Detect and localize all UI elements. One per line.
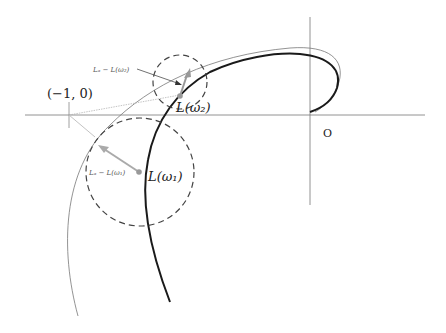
point-w2 [177, 93, 183, 99]
point-w2-label: L(ω₂) [175, 100, 211, 115]
leader-line-w2 [137, 69, 180, 84]
critical-point-label: (−1, 0) [47, 86, 93, 101]
arrowhead-w2-icon [184, 68, 191, 78]
perturbed-nyquist-curve [68, 48, 341, 316]
origin-label: O [323, 127, 332, 140]
point-w1-label: L(ω₁) [147, 169, 183, 184]
nyquist-diagram: (−1, 0) O L(ω₂) L(ω₁) Lₐ − L(ω₂) Lₐ − L(… [0, 0, 446, 333]
vector-w2-label: Lₐ − L(ω₂) [92, 66, 129, 74]
leader-arrow-icon [175, 80, 182, 85]
line-critical-to-w1 [69, 115, 95, 137]
vector-w1-label: Lₐ − L(ω₁) [88, 169, 125, 177]
point-w1 [136, 169, 142, 175]
